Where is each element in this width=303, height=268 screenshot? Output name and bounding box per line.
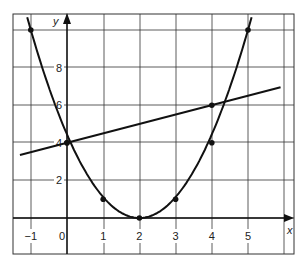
x-tick-label: −1 — [25, 230, 38, 242]
x-axis-label: x — [286, 224, 293, 236]
x-axis-arrow-icon — [284, 214, 294, 222]
data-point — [100, 196, 106, 202]
data-point — [245, 27, 251, 33]
x-tick-label: 5 — [245, 230, 251, 242]
x-tick-label: 3 — [173, 230, 179, 242]
y-axis-arrow-icon — [63, 13, 71, 24]
plotted-series — [20, 17, 281, 218]
graph: −10123452468 x y — [0, 0, 303, 268]
x-tick-label: 4 — [209, 230, 215, 242]
y-tick-label: 8 — [56, 62, 62, 74]
straight-line — [20, 87, 281, 155]
y-axis-label: y — [52, 15, 60, 27]
data-point — [28, 27, 34, 33]
y-tick-label: 4 — [56, 137, 62, 149]
x-tick-label: 0 — [59, 230, 65, 242]
axes — [13, 13, 294, 254]
data-point — [64, 140, 70, 146]
x-tick-label: 2 — [136, 230, 142, 242]
x-tick-label: 1 — [100, 230, 106, 242]
y-tick-label: 2 — [56, 174, 62, 186]
parabola-curve — [27, 17, 251, 218]
data-point — [173, 196, 179, 202]
data-point — [137, 215, 143, 221]
data-point — [209, 102, 215, 108]
data-point — [209, 140, 215, 146]
